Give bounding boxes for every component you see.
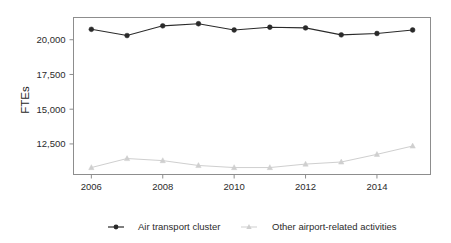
legend-label: Air transport cluster — [138, 221, 220, 232]
y-axis-title: FTEs — [19, 86, 31, 114]
data-point-marker — [303, 26, 308, 31]
data-point-marker — [89, 27, 94, 32]
legend-circle-marker-icon — [114, 225, 119, 230]
data-point-marker — [339, 32, 344, 37]
data-point-marker — [410, 28, 415, 33]
line-chart: FTEs 12,50015,00017,50020,000 2006200820… — [0, 0, 451, 243]
data-point-marker — [196, 21, 201, 26]
x-tick-label: 2010 — [224, 181, 245, 192]
x-tick-label: 2008 — [152, 181, 173, 192]
y-tick-label: 15,000 — [36, 104, 65, 115]
x-tick-label: 2014 — [366, 181, 387, 192]
x-tick-label: 2012 — [295, 181, 316, 192]
chart-container: FTEs 12,50015,00017,50020,000 2006200820… — [0, 0, 451, 243]
y-tick-label: 12,500 — [36, 138, 65, 149]
chart-background — [0, 0, 451, 243]
y-tick-label: 20,000 — [36, 34, 65, 45]
y-tick-label: 17,500 — [36, 69, 65, 80]
data-point-marker — [375, 31, 380, 36]
data-point-marker — [267, 25, 272, 30]
data-point-marker — [232, 28, 237, 33]
legend-label: Other airport-related activities — [272, 221, 397, 232]
data-point-marker — [160, 23, 165, 28]
data-point-marker — [125, 33, 130, 38]
x-tick-label: 2006 — [81, 181, 102, 192]
